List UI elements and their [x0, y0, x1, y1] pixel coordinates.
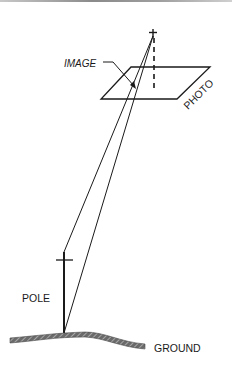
image-leader-arrow [103, 62, 136, 89]
ray-to-pole-base [64, 36, 153, 333]
photo-label: PHOTO [181, 77, 216, 112]
image-label: IMAGE [64, 58, 97, 69]
ground-label: GROUND [154, 342, 201, 354]
pole-label: POLE [22, 292, 50, 304]
ground-surface [10, 332, 145, 349]
pole [56, 252, 73, 334]
camera-pole-diagram: IMAGE PHOTO POLE GROUND [0, 0, 232, 369]
